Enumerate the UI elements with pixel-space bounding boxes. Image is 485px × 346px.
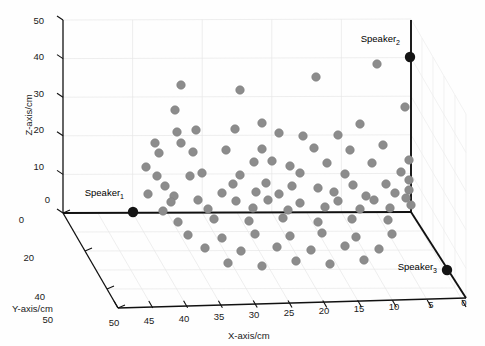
y-axis-tick-label: 50	[42, 314, 53, 325]
z-axis-tick-label: 20	[33, 124, 44, 135]
scatter-point	[292, 257, 301, 266]
scatter-point	[314, 184, 323, 193]
scatter-point	[405, 186, 414, 195]
scatter-point	[341, 242, 350, 251]
scatter-point	[204, 205, 213, 214]
speaker-label: Speaker2	[361, 33, 400, 46]
z-axis-tick-label: 30	[33, 88, 44, 99]
scatter-point	[229, 180, 238, 189]
scatter-point	[173, 128, 182, 137]
scatter-point	[321, 203, 330, 212]
y-axis-tick-label: 20	[23, 252, 34, 263]
scatter-point	[249, 204, 258, 213]
scatter-point	[153, 172, 162, 181]
x-axis-tick-label: 10	[389, 301, 400, 312]
scatter-point	[252, 188, 261, 197]
scatter-point	[192, 126, 201, 135]
scatter-point	[218, 234, 227, 243]
x-axis-tick-label: 20	[319, 305, 330, 316]
scatter-point	[177, 81, 186, 90]
scatter-point	[356, 120, 365, 129]
x-axis-tick-label: 15	[354, 303, 365, 314]
y-axis-title: Y-axis/cm	[12, 303, 53, 314]
scatter-point	[299, 132, 308, 141]
scatter-point	[155, 149, 164, 158]
speaker-label-subscript: 2	[396, 39, 400, 46]
scatter-point	[312, 73, 321, 82]
scatter-point	[349, 181, 358, 190]
scatter-point	[296, 199, 305, 208]
scatter-point	[258, 145, 267, 154]
plot-canvas: 50403020100 0204050 50454035302520151050…	[0, 0, 485, 346]
scatter-point	[245, 217, 254, 226]
scatter-point	[397, 168, 406, 177]
scatter-point	[388, 230, 397, 239]
z-axis-tick-label: 10	[33, 161, 44, 172]
scatter-point	[375, 245, 384, 254]
x-axis-tick-label: 0	[461, 297, 466, 308]
scatter-point	[348, 215, 357, 224]
scatter-point	[222, 146, 231, 155]
scatter-point	[405, 156, 414, 165]
scatter-point	[401, 103, 410, 112]
scatter-point	[360, 256, 369, 265]
figure-3d-scatter-plot: 50403020100 0204050 50454035302520151050…	[0, 0, 485, 346]
scatter-point	[184, 231, 193, 240]
scatter-point	[262, 179, 271, 188]
scatter-point	[144, 190, 153, 199]
x-axis-tick-label: 25	[284, 307, 295, 318]
scatter-point	[362, 192, 371, 201]
scatter-point	[194, 196, 203, 205]
scatter-point	[236, 86, 245, 95]
scatter-point	[232, 197, 241, 206]
right-floor-edge	[411, 212, 466, 298]
x-axis-tick-labels: 50454035302520151050	[109, 297, 467, 328]
scatter-point	[161, 182, 170, 191]
scatter-point	[310, 144, 319, 153]
scatter-point	[151, 139, 160, 148]
scatter-point	[314, 218, 323, 227]
scatter-point	[307, 246, 316, 255]
x-axis-tick-label: 40	[179, 313, 190, 324]
scatter-point	[288, 182, 297, 191]
scatter-point	[368, 159, 377, 168]
x-axis-tick-label: 45	[144, 315, 155, 326]
scatter-point	[334, 197, 343, 206]
scatter-point	[231, 125, 240, 134]
y-axis-tick-label: 40	[34, 291, 45, 302]
x-axis-title: X-axis/cm	[228, 330, 270, 341]
scatter-point	[356, 205, 365, 214]
x-axis-tick-label: 5	[428, 299, 433, 310]
scatter-point	[352, 233, 361, 242]
speaker-label: Speaker3	[398, 261, 437, 274]
scatter-point	[296, 169, 305, 178]
speaker-marker	[128, 207, 138, 217]
scatter-point	[341, 170, 350, 179]
z-axis-tick-label: 40	[33, 51, 44, 62]
scatter-point	[346, 146, 355, 155]
scatter-point	[236, 171, 245, 180]
scatter-point	[273, 243, 282, 252]
scatter-point	[174, 218, 183, 227]
scatter-point	[251, 230, 260, 239]
scatter-point	[258, 262, 267, 271]
scatter-point	[386, 204, 395, 213]
scatter-point	[189, 148, 198, 157]
scatter-point	[275, 190, 284, 199]
scatter-point	[286, 232, 295, 241]
z-axis-tick-label: 50	[33, 15, 44, 26]
scatter-point	[198, 169, 207, 178]
scatter-point	[286, 162, 295, 171]
scatter-point	[177, 139, 186, 148]
scatter-point	[167, 198, 176, 207]
speaker-annotations: Speaker1Speaker2Speaker3	[85, 33, 452, 275]
speaker-label-subscript: 3	[433, 267, 437, 274]
scatter-point	[279, 214, 288, 223]
scatter-point	[370, 196, 379, 205]
scatter-point	[405, 176, 414, 185]
scatter-point	[268, 157, 277, 166]
speaker-label-subscript: 1	[120, 193, 124, 200]
scatter-point	[218, 189, 227, 198]
scatter-point	[159, 207, 168, 216]
scatter-point	[334, 131, 343, 140]
